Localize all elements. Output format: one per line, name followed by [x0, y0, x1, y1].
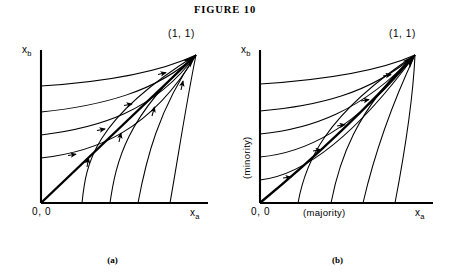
- panel-a-x-axis-label: xa: [190, 207, 200, 221]
- arrow-y-2: [97, 129, 105, 131]
- main-trajectory-line: [42, 57, 194, 202]
- panel-a-corner-label: (1, 1): [168, 28, 195, 39]
- panel-b-y-axis-note: (minority): [241, 136, 252, 179]
- arrow-y-4: [158, 73, 166, 75]
- arrow-y-3: [337, 125, 345, 126]
- y-axis-subscript: b: [246, 49, 250, 58]
- figure-root: FIGURE 10: [0, 0, 450, 277]
- arrow-x-4: [181, 81, 183, 90]
- panel-b-arrowheads: [283, 75, 391, 178]
- arrow-y-5: [383, 75, 391, 76]
- panel-a-origin-label: 0, 0: [32, 206, 51, 217]
- arrow-y-1: [68, 154, 76, 155]
- panel-a-caption: (a): [0, 255, 225, 265]
- panel-b-caption: (b): [225, 255, 450, 265]
- trajectory-y-3: [41, 55, 196, 112]
- trajectory-y-3: [260, 55, 415, 134]
- x-axis-subscript: a: [195, 212, 199, 221]
- panel-b-y-axis-label: xb: [241, 44, 251, 58]
- arrow-y-3: [124, 104, 132, 106]
- y-axis-subscript: b: [27, 49, 31, 58]
- panel-a-arrowheads: [68, 73, 183, 167]
- panel-b-y-trajectories: [260, 55, 415, 180]
- panel-a-y-axis-label: xb: [22, 44, 32, 58]
- panel-b-corner-label: (1, 1): [389, 28, 416, 39]
- panel-b-x-axis-label: xa: [415, 207, 425, 221]
- trajectory-x-2: [110, 55, 196, 203]
- panel-b-origin-label: 0, 0: [251, 206, 270, 217]
- figure-title: FIGURE 10: [0, 4, 450, 15]
- arrow-x-3: [152, 107, 155, 116]
- x-axis-subscript: a: [420, 212, 424, 221]
- trajectory-x-1: [82, 55, 196, 203]
- panel-a-x-trajectories: [82, 55, 196, 203]
- panel-a-main-diagonal: [42, 57, 194, 202]
- panel-b-x-axis-note: (majority): [303, 207, 346, 218]
- trajectory-y-1: [260, 55, 415, 180]
- panel-b: xb (minority) xa (majority) 0, 0 (1, 1) …: [225, 24, 450, 277]
- panel-a: xb xa 0, 0 (1, 1) (a): [0, 24, 225, 277]
